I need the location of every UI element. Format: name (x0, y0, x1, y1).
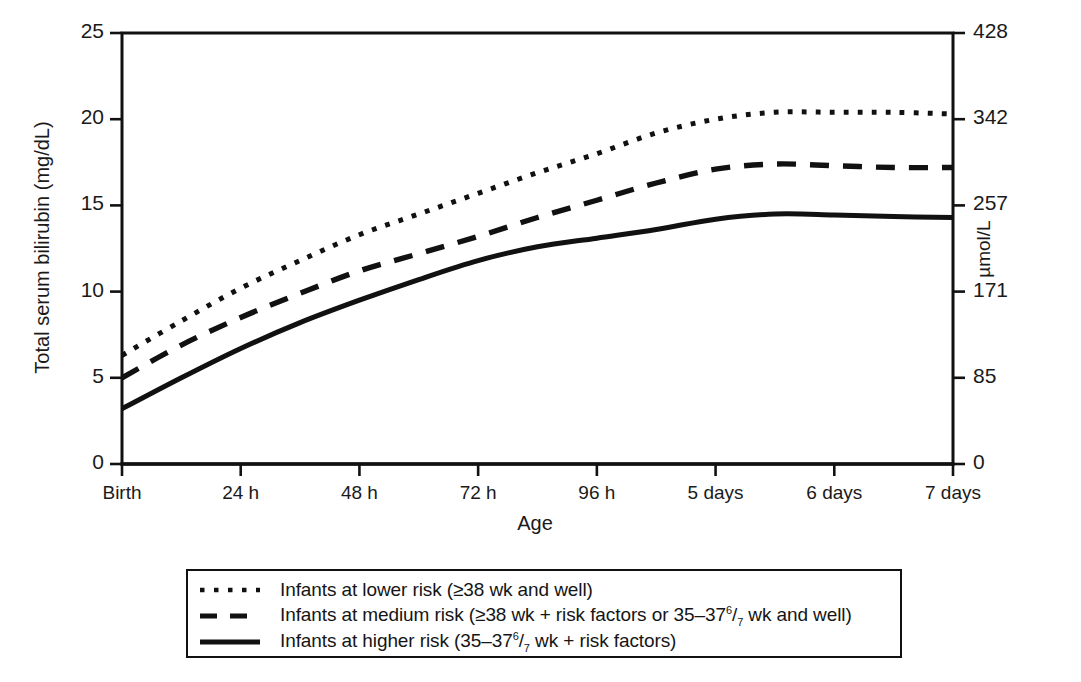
y-axis-right-tick-428: 428 (973, 19, 1043, 43)
x-axis-tick-7-days: 7 days (893, 482, 1013, 504)
data-series-group (122, 112, 953, 409)
legend-higher-post: wk + risk factors) (530, 630, 676, 651)
legend-medium-post: wk and well) (743, 604, 852, 625)
y-axis-right-tick-0: 0 (973, 450, 1043, 474)
x-axis-tick-96-h: 96 h (537, 482, 657, 504)
y-axis-left-title: Total serum bilirubin (mg/dL) (31, 88, 54, 408)
legend-item-higher-risk: Infants at higher risk (35–376/7 wk + ri… (198, 629, 676, 655)
y-axis-right-tick-342: 342 (973, 105, 1043, 129)
legend-higher-pre: Infants at higher risk (35–37 (280, 630, 513, 651)
series-line-solid (122, 214, 953, 409)
x-axis-tick-6-days: 6 days (774, 482, 894, 504)
x-axis-tick-48-h: 48 h (299, 482, 419, 504)
y-axis-right-title: µmol/L (973, 169, 995, 329)
legend-label-lower-risk: Infants at lower risk (≥38 wk and well) (280, 579, 593, 601)
legend-label-higher-risk: Infants at higher risk (35–376/7 wk + ri… (280, 630, 676, 654)
chart-legend: Infants at lower risk (≥38 wk and well) … (186, 569, 902, 658)
legend-medium-pre: Infants at medium risk (≥38 wk + risk fa… (280, 604, 726, 625)
legend-item-medium-risk: Infants at medium risk (≥38 wk + risk fa… (198, 603, 852, 629)
legend-label-medium-risk: Infants at medium risk (≥38 wk + risk fa… (280, 604, 852, 628)
y-axis-right-tick-85: 85 (973, 364, 1043, 388)
axis-ticks (110, 33, 965, 476)
y-axis-left-tick-0: 0 (42, 450, 104, 474)
x-axis-tick-24-h: 24 h (181, 482, 301, 504)
y-axis-left-tick-25: 25 (42, 19, 104, 43)
x-axis-title: Age (455, 512, 615, 535)
x-axis-tick-72-h: 72 h (418, 482, 538, 504)
legend-key-solid (198, 633, 270, 651)
legend-key-dashed (198, 607, 270, 625)
x-axis-tick-5-days: 5 days (656, 482, 776, 504)
x-axis-tick-birth: Birth (62, 482, 182, 504)
series-line-dotted (122, 112, 953, 356)
legend-item-lower-risk: Infants at lower risk (≥38 wk and well) (198, 577, 593, 603)
legend-key-dotted (198, 581, 270, 599)
bilirubin-nomogram-figure: 0510152025 085171257342428 Birth24 h48 h… (0, 0, 1081, 682)
